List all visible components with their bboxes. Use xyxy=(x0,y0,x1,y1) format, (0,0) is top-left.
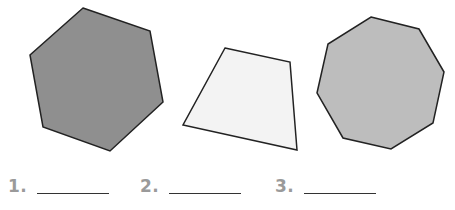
quadrilateral-shape xyxy=(183,48,297,150)
answer-item-1: 1. xyxy=(8,176,109,196)
answer-blank[interactable] xyxy=(37,177,109,194)
answer-blank[interactable] xyxy=(304,177,376,194)
answer-number: 2. xyxy=(140,176,159,196)
octagon-shape xyxy=(317,17,444,149)
answer-blank[interactable] xyxy=(169,177,241,194)
answer-item-2: 2. xyxy=(140,176,241,196)
answer-number: 1. xyxy=(8,176,27,196)
hexagon-shape xyxy=(30,8,163,151)
answer-number: 3. xyxy=(275,176,294,196)
answer-item-3: 3. xyxy=(275,176,376,196)
